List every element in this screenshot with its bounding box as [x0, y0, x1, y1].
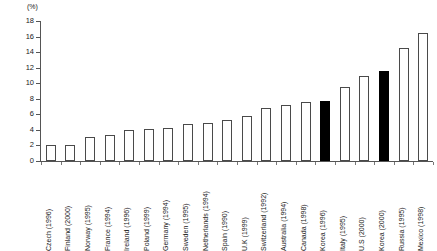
- bar: [359, 76, 369, 161]
- x-axis-tick: [41, 162, 42, 165]
- x-axis-category-label: Australia (1994): [280, 166, 289, 246]
- x-axis-tick: [80, 162, 81, 165]
- x-axis-category-label: U.S (2000): [358, 166, 367, 246]
- bar: [163, 128, 173, 161]
- bar: [124, 130, 134, 161]
- x-axis-tick: [119, 162, 120, 165]
- bar: [46, 145, 56, 161]
- x-axis-category-label-text: France (1994): [104, 207, 111, 251]
- x-axis-category-label-text: U.K (1999): [241, 217, 248, 251]
- x-axis-category-label: Ireland (1996): [123, 166, 132, 246]
- x-axis-tick: [296, 162, 297, 165]
- x-axis-category-label-text: Norway (1995): [84, 205, 91, 251]
- bar: [144, 129, 154, 161]
- x-axis-category-label-text: Russia (1995): [398, 207, 405, 251]
- y-axis-tick-label: 2: [0, 141, 34, 149]
- x-axis-category-label-text: Switzerland (1992): [260, 193, 267, 251]
- x-axis-category-label-text: Netherlands (1994): [202, 191, 209, 251]
- x-axis-category-label-text: Italy (1995): [339, 216, 346, 251]
- x-axis-category-label: Switzerland (1992): [260, 166, 269, 246]
- x-axis-category-label: Korea (1996): [319, 166, 328, 246]
- x-axis-category-label-text: Czech (1996): [45, 209, 52, 251]
- x-axis-category-label: U.K (1999): [241, 166, 250, 246]
- x-axis-tick: [237, 162, 238, 165]
- x-axis-category-label-text: Canada (1998): [300, 204, 307, 251]
- x-axis-category-label-text: Australia (1994): [280, 202, 287, 251]
- x-axis-category-label: Czech (1996): [45, 166, 54, 246]
- bar: [399, 48, 409, 161]
- x-axis-tick: [394, 162, 395, 165]
- x-axis-tick: [315, 162, 316, 165]
- x-axis-tick: [433, 162, 434, 165]
- x-axis-tick: [100, 162, 101, 165]
- x-axis-category-label: Netherlands (1994): [202, 166, 211, 246]
- x-axis-category-label-text: U.S (2000): [358, 217, 365, 251]
- bar: [183, 124, 193, 161]
- y-axis-tick-label: 16: [0, 33, 34, 41]
- x-axis-category-label-text: Germany (1994): [162, 200, 169, 251]
- x-axis-tick: [198, 162, 199, 165]
- x-axis-category-label: Italy (1995): [339, 166, 348, 246]
- plot-area: [41, 21, 433, 161]
- x-axis-category-label: Poland (1999): [143, 166, 152, 246]
- bar: [203, 123, 213, 161]
- x-axis-tick: [413, 162, 414, 165]
- bar: [281, 105, 291, 161]
- y-axis-tick-label: 14: [0, 48, 34, 56]
- x-axis-category-label-text: Mexico (1998): [417, 207, 424, 251]
- x-axis-category-label: Mexico (1998): [417, 166, 426, 246]
- x-axis-tick: [178, 162, 179, 165]
- bar: [85, 137, 95, 161]
- bar: [301, 102, 311, 161]
- x-axis-tick: [374, 162, 375, 165]
- x-axis-category-label: Sweden (1995): [182, 166, 191, 246]
- x-axis-tick: [276, 162, 277, 165]
- bar: [242, 116, 252, 161]
- y-axis-tick-label: 6: [0, 110, 34, 118]
- x-axis-category-label-text: Korea (2000): [378, 210, 385, 251]
- x-axis-category-label-text: Finland (2000): [64, 206, 71, 251]
- bar: [340, 87, 350, 161]
- x-axis-tick: [139, 162, 140, 165]
- y-axis-tick-label: 4: [0, 126, 34, 134]
- bar: [261, 108, 271, 161]
- x-axis-category-label-text: Spain (1990): [221, 211, 228, 251]
- x-axis-category-label-text: Poland (1999): [143, 207, 150, 251]
- x-axis-category-label-text: Ireland (1996): [123, 207, 130, 251]
- bar: [379, 71, 389, 161]
- x-axis-tick: [159, 162, 160, 165]
- x-axis-category-label: Spain (1990): [221, 166, 230, 246]
- y-axis-tick-label: 18: [0, 17, 34, 25]
- x-axis-tick: [355, 162, 356, 165]
- x-axis-tick: [61, 162, 62, 165]
- y-axis-tick-label: 10: [0, 79, 34, 87]
- x-axis-category-label: Finland (2000): [64, 166, 73, 246]
- y-axis-tick-label: 0: [0, 157, 34, 165]
- bar: [105, 135, 115, 161]
- x-axis-category-label: Russia (1995): [398, 166, 407, 246]
- x-axis-category-label: France (1994): [104, 166, 113, 246]
- bar: [320, 101, 330, 161]
- x-axis-category-label: Canada (1998): [300, 166, 309, 246]
- y-axis-tick-label: 12: [0, 64, 34, 72]
- x-axis-tick: [257, 162, 258, 165]
- x-axis-tick: [217, 162, 218, 165]
- x-axis-tick: [335, 162, 336, 165]
- y-axis-tick-label: 8: [0, 95, 34, 103]
- bar: [418, 33, 428, 161]
- y-axis-unit-label: (%): [27, 2, 38, 11]
- x-axis-category-label: Germany (1994): [162, 166, 171, 246]
- bar: [65, 145, 75, 161]
- x-axis-category-label: Norway (1995): [84, 166, 93, 246]
- bar: [222, 120, 232, 161]
- x-axis-category-label: Korea (2000): [378, 166, 387, 246]
- x-axis-category-label-text: Korea (1996): [319, 210, 326, 251]
- x-axis-category-label-text: Sweden (1995): [182, 204, 189, 251]
